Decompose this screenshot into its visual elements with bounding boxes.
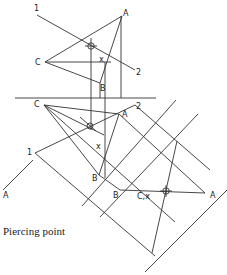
projector-1	[35, 153, 155, 256]
label-b-aux: B	[113, 191, 119, 200]
ref-line-2	[100, 114, 198, 217]
diagram-caption: Piercing point	[3, 225, 65, 237]
label-a-right: A	[210, 191, 216, 200]
edge-ab-top	[100, 16, 122, 83]
label-a-top: A	[123, 9, 129, 18]
label-2-top: 2	[136, 68, 141, 77]
front-view: C A 2 B 1 x	[27, 100, 141, 183]
edge-ab-front	[99, 114, 119, 175]
projector-a	[119, 114, 205, 193]
label-c-front: C	[34, 100, 40, 109]
edge-cb-top	[45, 62, 100, 83]
label-b-front: B	[92, 174, 98, 183]
edge-ca-front	[44, 105, 119, 114]
label-a-left: A	[3, 191, 9, 200]
label-x-top: x	[99, 55, 104, 64]
label-b-top: B	[100, 84, 106, 93]
ref-line-left	[3, 160, 33, 190]
label-c-top: C	[35, 58, 41, 67]
top-view: 1 2 A C B x	[34, 4, 141, 178]
label-1-front: 1	[27, 148, 32, 157]
label-cx-aux: C,x	[137, 192, 150, 201]
edge-ac-top	[45, 16, 122, 62]
projector-b	[99, 175, 120, 190]
label-x-front: x	[96, 142, 101, 151]
label-1-top: 1	[34, 4, 39, 13]
